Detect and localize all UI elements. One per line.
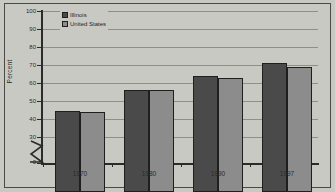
y-tick-label-40: 40 [10,116,36,122]
y-tick-label-60: 60 [10,80,36,86]
y-tick-label-90: 90 [10,26,36,32]
y-tick-label-50: 50 [10,98,36,104]
y-tick-50 [37,101,42,102]
axis-break-icon [28,140,48,164]
y-tick-label-70: 70 [10,62,36,68]
y-tick-80 [37,47,42,48]
x-tick-0 [43,163,44,167]
legend-item-united-states[interactable]: United States [62,20,106,28]
y-axis-title: Percent [6,50,13,94]
bar-united-states-1970[interactable] [80,112,105,192]
x-tick-2 [181,163,182,167]
legend-label-illinois: Illinois [70,12,87,19]
y-tick-100 [37,11,42,12]
y-tick-90 [37,29,42,30]
x-label-1980: 1980 [129,170,169,177]
x-label-1970: 1970 [60,170,100,177]
chart-legend: Illinois United States [60,10,108,30]
legend-swatch-illinois [62,12,68,18]
y-tick-30 [37,137,42,138]
legend-label-united-states: United States [70,21,106,28]
x-tick-1 [112,163,113,167]
chart-figure: 100 90 80 70 60 50 40 30 0 Percent 1970 … [0,0,335,192]
y-tick-70 [37,65,42,66]
y-tick-60 [37,83,42,84]
x-label-1997: 1997 [267,170,307,177]
x-tick-3 [250,163,251,167]
legend-swatch-united-states [62,21,68,27]
y-tick-40 [37,119,42,120]
y-tick-label-80: 80 [10,44,36,50]
bar-illinois-1970[interactable] [55,111,80,192]
y-tick-label-100: 100 [10,8,36,14]
x-label-1990: 1990 [198,170,238,177]
legend-item-illinois[interactable]: Illinois [62,11,106,19]
